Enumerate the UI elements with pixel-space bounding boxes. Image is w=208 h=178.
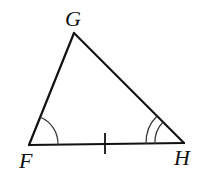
angle-f-arc [40, 117, 58, 145]
angle-h-arc-inner [155, 122, 163, 144]
vertex-label-g: G [65, 6, 81, 31]
side-fg [29, 33, 74, 145]
vertex-label-h: H [173, 145, 191, 170]
vertex-label-f: F [18, 148, 33, 173]
triangle-fgh-diagram: G F H [0, 0, 208, 178]
side-fh [29, 143, 184, 145]
side-gh [74, 33, 184, 143]
